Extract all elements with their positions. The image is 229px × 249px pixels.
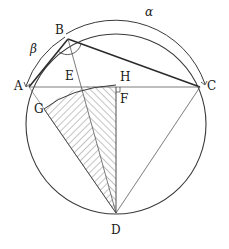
label-a: A [14,80,23,92]
segment-cd [116,87,200,213]
label-b: B [55,24,64,36]
label-f: F [120,93,128,105]
label-d: D [111,224,121,236]
geometry-diagram [0,0,229,249]
label-c: C [207,80,216,92]
label-e: E [65,70,74,82]
label-h: H [120,71,130,83]
arc-alpha [66,20,205,84]
label-beta: β [30,43,37,55]
label-g: G [34,103,44,115]
label-alpha: α [145,6,153,18]
